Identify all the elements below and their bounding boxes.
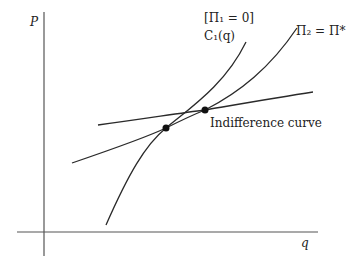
tangency-point [202, 107, 209, 114]
diagram-canvas: P q [Π₁ = 0] C₁(q) Π₂ = Π* Indifference … [0, 0, 348, 265]
indifference-label: Indifference curve [210, 116, 322, 130]
x-axis-label: q [301, 236, 309, 250]
c1-label-name: C₁(q) [204, 29, 235, 43]
c1-curve [106, 42, 246, 225]
pi2-label: Π₂ = Π* [296, 24, 345, 38]
c1-label-constraint: [Π₁ = 0] [204, 11, 254, 25]
intersection-point [163, 125, 170, 132]
pi2-curve [72, 28, 297, 163]
y-axis-label: P [29, 15, 39, 29]
